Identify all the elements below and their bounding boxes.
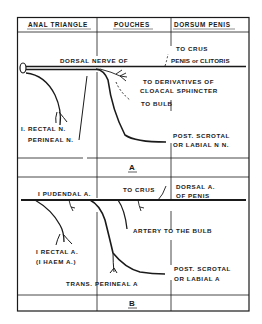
label-trans-perineal: TRANS. PERINEAL A: [66, 280, 138, 287]
rectal-nerve: [26, 73, 60, 125]
perineal-nerve: [79, 76, 87, 140]
small-branch-2: [138, 200, 144, 211]
column-header-dorsum-penis: DORSUM PENIS: [174, 21, 231, 28]
pudendal-diagram: ANAL TRIANGLE POUCHES DORSUM PENIS TO CR…: [0, 0, 262, 324]
column-header-pouches: POUCHES: [114, 21, 150, 28]
crus-nerve: [165, 54, 168, 66]
label-to-bulb: TO BULB: [141, 100, 173, 107]
small-branch-1: [69, 200, 75, 211]
cloacal-sphincter-nerve: [100, 69, 127, 81]
bulb-artery: [118, 200, 127, 229]
label-dorsal-artery-line2: OF PENIS: [176, 192, 210, 199]
dorsal-artery-crus-branch: [158, 186, 166, 200]
label-scrotal-a-line2: OR LABIAL A: [174, 275, 220, 282]
label-b-to-crus: TO CRUS: [123, 186, 155, 193]
label-scrotal-nn-line1: POST. SCROTAL: [173, 132, 230, 139]
pudendal-nerve-cut-end: [20, 63, 26, 73]
label-artery-to-bulb: ARTERY TO THE BULB: [133, 227, 212, 234]
column-header-anal-triangle: ANAL TRIANGLE: [28, 21, 88, 28]
label-scrotal-a-line1: POST. SCROTAL: [174, 265, 231, 272]
trans-perineal-artery: [90, 200, 113, 253]
rectal-nerve-branch-1: [56, 112, 57, 123]
label-rectal-artery-line1: I RECTAL A.: [36, 248, 78, 255]
rectal-artery-branch-1: [56, 234, 60, 245]
panel-b-label: B: [129, 299, 135, 308]
label-derivatives-line2: CLOACAL SPHINCTER: [140, 87, 218, 94]
label-pudendal-artery: I PUDENDAL A.: [38, 190, 91, 197]
label-penis-or-clitoris: PENIS or CLITORIS: [171, 57, 230, 64]
label-rectal-artery-line2: (I HAEM A.): [36, 258, 76, 265]
label-rectal-nerve: I. RECTAL N.: [21, 125, 66, 132]
label-scrotal-nn-line2: OR LABIAL N N.: [173, 141, 229, 148]
scrotal-artery: [113, 253, 165, 274]
label-derivatives-line1: TO DERIVATIVES OF: [143, 78, 214, 85]
label-to-crus: TO CRUS: [176, 45, 208, 52]
label-dorsal-artery-line1: DORSAL A.: [176, 183, 215, 190]
panel-a-label: A: [129, 163, 135, 172]
label-perineal-nerve: PERINEAL N.: [28, 136, 74, 143]
bulb-nerve: [116, 82, 130, 100]
label-dorsal-nerve-of: DORSAL NERVE OF: [60, 57, 128, 64]
